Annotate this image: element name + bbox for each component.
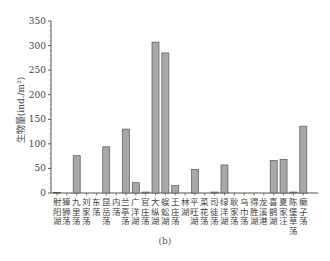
bar — [162, 53, 169, 193]
category-label: 家 — [230, 207, 239, 217]
category-label: 司 — [210, 197, 219, 207]
y-tick-label: 350 — [29, 16, 46, 26]
category-label: 湖 — [220, 216, 229, 226]
bar — [270, 161, 277, 193]
category-label: 王 — [171, 197, 180, 207]
category-label: 刘 — [82, 197, 91, 207]
category-label: 湖 — [250, 216, 259, 226]
category-label: 乌 — [240, 197, 249, 207]
category-label: 癞 — [299, 197, 308, 207]
bar — [132, 183, 139, 193]
category-label: 荡 — [102, 216, 111, 226]
category-label: 湖 — [161, 216, 170, 226]
y-axis-label: 生物量(ind./m²) — [15, 77, 26, 144]
bar — [152, 42, 159, 193]
category-label: 湖 — [151, 216, 160, 226]
category-label: 广 — [131, 197, 140, 207]
category-label: 东 — [92, 197, 101, 207]
category-label: 陈 — [289, 197, 298, 207]
bar — [221, 165, 228, 193]
category-label: 庄 — [141, 207, 150, 217]
category-label: 花 — [200, 207, 209, 217]
category-label: 阳 — [53, 207, 62, 217]
category-label: 湖 — [131, 216, 140, 226]
y-tick-label: 250 — [29, 65, 46, 75]
category-label: 洋 — [131, 207, 140, 217]
category-label: 堡 — [289, 207, 298, 217]
category-label: 岳 — [102, 207, 111, 217]
category-label: 荡 — [112, 207, 121, 217]
category-label: 兰 — [121, 197, 130, 207]
category-label: 胜 — [250, 207, 259, 217]
category-label: 庄 — [171, 207, 180, 217]
category-label: 荡 — [62, 216, 71, 226]
category-label: 纵 — [151, 207, 160, 217]
category-label: 荡 — [141, 216, 150, 226]
category-label: 官 — [141, 197, 150, 207]
category-label: 耿 — [230, 197, 239, 207]
category-label: 亭 — [121, 207, 130, 217]
category-label: 溪 — [259, 207, 268, 217]
category-label: 蚣 — [161, 207, 170, 217]
y-tick-label: 0 — [40, 188, 46, 198]
category-label: 内 — [112, 197, 121, 207]
bar — [211, 192, 218, 193]
category-label: 夏 — [279, 197, 288, 207]
category-label: 射 — [53, 197, 62, 207]
category-label: 荡 — [82, 216, 91, 226]
category-label: 绿 — [220, 197, 229, 207]
category-label: 荡 — [171, 216, 180, 226]
category-label: 荡 — [121, 216, 130, 226]
category-label: 鹊 — [269, 207, 278, 217]
y-tick-label: 200 — [29, 90, 46, 100]
category-label: 里 — [72, 207, 81, 217]
category-label: 湖 — [181, 207, 190, 217]
category-label: 喜 — [269, 197, 278, 207]
category-label: 荡 — [92, 207, 101, 217]
y-tick-label: 150 — [29, 114, 46, 124]
bar — [280, 160, 287, 193]
category-label: 草 — [289, 216, 298, 226]
category-label: 菜 — [200, 197, 209, 207]
bar — [73, 156, 80, 193]
category-label: 荡 — [230, 216, 239, 226]
bar-chart: 050100150200250300350生物量(ind./m²)射阳湖獐狮荡九… — [0, 0, 330, 261]
category-label: 子 — [299, 207, 308, 217]
y-tick-label: 300 — [29, 41, 46, 51]
category-label: 狮 — [62, 207, 71, 217]
category-label: 蜈 — [161, 197, 170, 207]
category-label: 大 — [151, 197, 160, 207]
bar — [290, 192, 297, 193]
category-label: 龙 — [259, 197, 268, 207]
category-label: 荡 — [289, 226, 298, 236]
y-tick-label: 50 — [35, 163, 47, 173]
bar — [142, 192, 149, 193]
category-label: 家 — [82, 207, 91, 217]
category-label: 汪 — [279, 216, 288, 226]
category-label: 林 — [181, 197, 190, 207]
category-label: 九 — [72, 197, 81, 207]
category-label: 得 — [250, 197, 259, 207]
category-label: 湖 — [190, 216, 199, 226]
category-label: 荡 — [299, 216, 308, 226]
category-label: 平 — [190, 197, 199, 207]
bar — [300, 126, 307, 193]
bar — [103, 147, 110, 193]
category-label: 荡 — [200, 216, 209, 226]
y-tick-label: 100 — [29, 139, 46, 149]
category-label: 洋 — [220, 207, 229, 217]
category-label: 荡 — [210, 216, 219, 226]
bar — [122, 129, 129, 193]
category-label: 昆 — [102, 197, 111, 207]
category-label: 湖 — [53, 216, 62, 226]
figure-caption: (b) — [0, 236, 330, 246]
category-label: 獐 — [62, 197, 71, 207]
category-label: 荡 — [72, 216, 81, 226]
category-label: 港 — [259, 216, 268, 226]
category-label: 湖 — [269, 216, 278, 226]
category-label: 巾 — [240, 207, 249, 217]
category-label: 旺 — [190, 207, 199, 217]
category-label: 家 — [279, 207, 288, 217]
category-label: 荡 — [240, 216, 249, 226]
bar — [191, 169, 198, 193]
